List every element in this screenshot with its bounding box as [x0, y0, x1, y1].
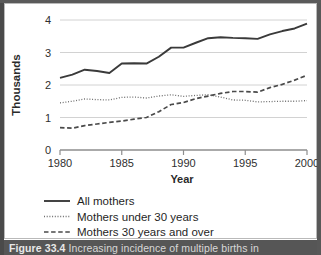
- figure-caption-bar: Figure 33.4 Increasing incidence of mult…: [4, 240, 317, 255]
- x-axis-ticks: [60, 150, 307, 155]
- svg-text:3: 3: [45, 47, 51, 59]
- chart-legend: All mothersMothers under 30 yearsMothers…: [44, 195, 214, 238]
- data-series-group: [60, 24, 307, 129]
- x-axis-title: Year: [170, 173, 194, 185]
- figure-container: 01234 19801985199019952000 Thousands Yea…: [0, 0, 321, 255]
- svg-text:1: 1: [45, 112, 51, 124]
- series-line-0: [60, 24, 307, 78]
- svg-text:1980: 1980: [48, 157, 72, 169]
- line-chart: 01234 19801985199019952000 Thousands Yea…: [4, 3, 317, 239]
- svg-text:2: 2: [45, 79, 51, 91]
- figure-caption: Figure 33.4 Increasing incidence of mult…: [9, 242, 314, 254]
- figure-caption-body: Increasing incidence of multiple births …: [69, 242, 259, 254]
- svg-text:1990: 1990: [171, 157, 195, 169]
- y-axis-title: Thousands: [10, 54, 22, 115]
- svg-text:1995: 1995: [233, 157, 257, 169]
- svg-text:1985: 1985: [110, 157, 134, 169]
- series-line-2: [60, 75, 307, 128]
- y-axis-tick-labels: 01234: [45, 14, 51, 156]
- legend-label-1: Mothers under 30 years: [77, 211, 199, 223]
- legend-label-2: Mothers 30 years and over: [77, 226, 214, 238]
- svg-text:0: 0: [45, 144, 51, 156]
- series-line-1: [60, 95, 307, 103]
- page-edge-right: [317, 0, 321, 255]
- legend-label-0: All mothers: [77, 195, 135, 207]
- svg-text:4: 4: [45, 14, 51, 26]
- svg-text:2000: 2000: [295, 157, 317, 169]
- figure-number: Figure 33.4: [9, 242, 66, 254]
- x-axis-tick-labels: 19801985199019952000: [48, 157, 317, 169]
